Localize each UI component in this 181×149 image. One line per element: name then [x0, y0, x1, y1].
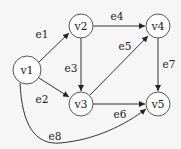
- edge-label-e3: e3: [65, 62, 78, 74]
- node-v1: v1: [13, 56, 41, 84]
- node-label-v5: v5: [150, 98, 164, 111]
- edge-label-e4: e4: [111, 10, 124, 22]
- edges: [20, 26, 158, 143]
- edge-label-e7: e7: [163, 58, 176, 70]
- graph-canvas: e1 e2 e3 e4 e5 e6 e7 e8 v1 v2 v3 v4 v5: [0, 0, 181, 149]
- edge-label-e6: e6: [114, 108, 127, 120]
- edge-label-e2: e2: [36, 93, 49, 105]
- node-v4: v4: [146, 14, 170, 38]
- node-v5: v5: [146, 92, 170, 116]
- node-v2: v2: [69, 14, 93, 38]
- edge-label-e1: e1: [36, 28, 49, 40]
- node-label-v3: v3: [73, 98, 87, 111]
- node-label-v2: v2: [73, 20, 87, 33]
- node-v3: v3: [69, 92, 93, 116]
- node-label-v1: v1: [19, 64, 33, 77]
- edge-label-e8: e8: [49, 130, 62, 142]
- edge-label-e5: e5: [119, 40, 132, 52]
- node-label-v4: v4: [150, 20, 164, 33]
